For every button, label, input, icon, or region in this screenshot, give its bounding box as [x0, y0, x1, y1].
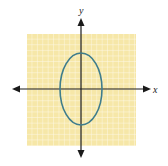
x-axis-right-arrow-icon	[143, 86, 151, 93]
y-axis-up-arrow-icon	[78, 18, 85, 26]
x-axis-left-arrow-icon	[12, 86, 20, 93]
coordinate-plane: x y	[0, 0, 168, 166]
y-axis-label: y	[78, 5, 84, 16]
y-axis-down-arrow-icon	[78, 150, 85, 158]
x-axis-label: x	[152, 84, 158, 95]
